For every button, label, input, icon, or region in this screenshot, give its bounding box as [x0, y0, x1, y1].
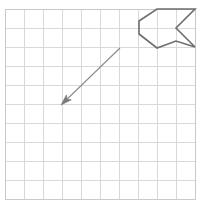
grid [5, 9, 195, 199]
translation-vector-arrow [61, 48, 120, 105]
arrow-shaft-line [67, 48, 120, 99]
figure-svg [0, 0, 200, 211]
figure-canvas [0, 0, 200, 211]
